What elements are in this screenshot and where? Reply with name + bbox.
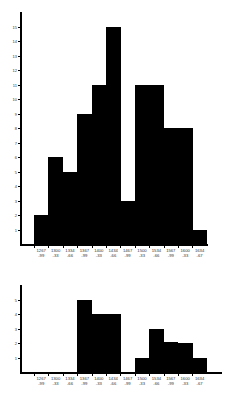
y-tick [18, 172, 21, 173]
y-tick [18, 343, 21, 344]
y-tick-label: 1 [3, 228, 17, 233]
bar-1634-67 [192, 230, 207, 245]
bar-1634-67 [192, 358, 207, 372]
y-tick [18, 56, 21, 57]
y-tick [18, 143, 21, 144]
bar-1600-33 [178, 343, 193, 372]
bar-1300-33 [48, 157, 63, 244]
y-tick [18, 41, 21, 42]
y-tick [18, 114, 21, 115]
y-tick [18, 157, 21, 158]
bar-1467-99 [120, 201, 135, 245]
y-tick-label: 4 [3, 312, 17, 317]
y-tick-label: 5 [3, 298, 17, 303]
y-tick-label: 3 [3, 327, 17, 332]
y-tick [18, 99, 21, 100]
y-tick [18, 186, 21, 187]
y-tick [18, 85, 21, 86]
bar-1567-99 [164, 342, 179, 372]
bar-1367-99 [77, 300, 92, 372]
y-tick [18, 358, 21, 359]
y-tick-label: 8 [3, 126, 17, 131]
y-tick [18, 314, 21, 315]
y-tick [18, 300, 21, 301]
y-tick-label: 5 [3, 170, 17, 175]
bar-1334-66 [63, 172, 78, 245]
bar-1500-33 [135, 358, 150, 372]
y-tick-label: 13 [3, 54, 17, 59]
y-tick [18, 215, 21, 216]
y-tick-label: 4 [3, 184, 17, 189]
bar-1400-33 [92, 85, 107, 245]
y-tick-label: 7 [3, 141, 17, 146]
y-tick-label: 12 [3, 68, 17, 73]
y-tick-label: 1 [3, 356, 17, 361]
bar-1434-66 [106, 314, 121, 372]
y-tick [18, 128, 21, 129]
bar-1534-66 [149, 329, 164, 372]
bar-1500-33 [135, 85, 150, 245]
y-tick-label: 3 [3, 199, 17, 204]
y-axis [20, 12, 22, 246]
x-tick-label: 1634-67 [192, 248, 208, 258]
y-tick-label: 11 [3, 83, 17, 88]
y-tick [18, 70, 21, 71]
bar-1400-33 [92, 314, 107, 372]
bar-1534-66 [149, 85, 164, 245]
bar-1600-33 [178, 128, 193, 244]
y-tick-label: 9 [3, 112, 17, 117]
y-tick [18, 230, 21, 231]
bar-1367-99 [77, 114, 92, 245]
y-tick-label: 15 [3, 25, 17, 30]
bar-1434-66 [106, 27, 121, 245]
y-tick-label: 2 [3, 213, 17, 218]
y-tick [18, 201, 21, 202]
y-tick [18, 329, 21, 330]
y-tick-label: 6 [3, 155, 17, 160]
bar-1567-99 [164, 128, 179, 244]
y-tick-label: 10 [3, 97, 17, 102]
y-tick-label: 14 [3, 39, 17, 44]
x-tick-label: 1634-67 [192, 376, 208, 386]
bar-1267-99 [34, 215, 49, 244]
y-tick [18, 27, 21, 28]
y-tick-label: 2 [3, 341, 17, 346]
